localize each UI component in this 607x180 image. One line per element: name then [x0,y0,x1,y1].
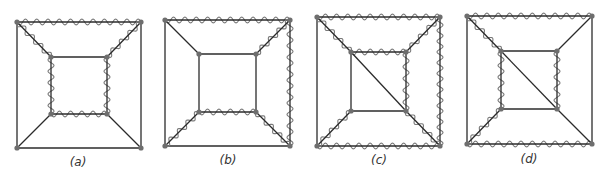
edge-diag-br [557,109,592,144]
vertex-inner-tl [48,54,53,59]
panel-c [314,14,443,149]
panel-label-d: (d) [521,152,538,166]
vertex-inner-br [104,111,109,116]
vertex-outer-tl [464,13,469,18]
panel-b [162,17,293,149]
edge-inner-diag [351,52,406,111]
edge-diag-tr [256,20,290,54]
vertex-outer-br [589,141,594,146]
vertex-inner-tr [253,51,258,56]
vertex-outer-tr [287,17,292,22]
vertex-outer-tr [138,19,143,24]
panel-label-a: (a) [70,155,87,169]
vertex-inner-tl [348,49,353,54]
vertex-inner-br [554,106,559,111]
vertex-inner-bl [348,108,353,113]
vertex-outer-br [437,143,442,148]
edge-diag-tr [406,17,440,52]
vertex-outer-bl [314,143,319,148]
vertex-outer-bl [162,143,167,148]
vertex-outer-tl [162,17,167,22]
vertex-inner-tr [104,54,109,59]
panel-label-b: (b) [220,153,237,167]
edge-diag-tl [165,20,199,54]
panel-label-c: (c) [371,153,387,167]
vertex-inner-br [403,108,408,113]
panel-d [464,13,594,147]
vertex-inner-tr [403,49,408,54]
vertex-outer-br [138,145,143,150]
vertex-outer-tl [314,14,319,19]
vertex-outer-bl [14,145,19,150]
vertex-outer-bl [464,141,469,146]
edge-diag-br [406,111,440,146]
vertex-inner-tl [498,48,503,53]
edge-diag-bl [317,111,351,146]
vertex-inner-br [253,109,258,114]
vertex-outer-tr [589,13,594,18]
vertex-inner-bl [498,106,503,111]
edge-inner-diag [501,51,557,109]
edge-diag-tl [17,22,51,57]
edge-diag-tr [557,16,592,51]
vertex-outer-tr [437,14,442,19]
vertex-inner-tr [554,48,559,53]
graph-figure: (a) (b) (c) (d) [0,0,607,180]
edge-diag-br [256,112,290,146]
panel-a [14,19,143,151]
edge-diag-tr [107,22,141,57]
edge-diag-br [107,114,141,148]
edge-diag-tl [467,16,501,51]
edge-diag-bl [165,112,199,146]
edge-diag-bl [467,109,501,144]
vertex-inner-tl [196,51,201,56]
edge-diag-bl [17,114,51,148]
vertex-inner-bl [196,109,201,114]
vertex-inner-bl [48,111,53,116]
edge-diag-tl [317,17,351,52]
vertex-outer-tl [14,19,19,24]
vertex-outer-br [287,143,292,148]
